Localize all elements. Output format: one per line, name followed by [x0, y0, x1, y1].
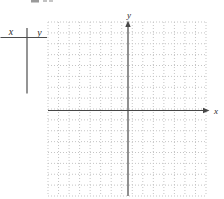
y-axis: y	[125, 10, 131, 196]
graph-figure: x y x y	[0, 0, 224, 199]
table-header-y: y	[36, 27, 42, 38]
xy-value-table: x y	[1, 26, 48, 94]
cropped-text-remnant	[31, 0, 53, 3]
y-axis-arrow	[125, 21, 130, 28]
y-axis-label: y	[126, 10, 131, 20]
table-header-x: x	[8, 26, 14, 37]
x-axis: x	[48, 106, 218, 116]
grid	[48, 22, 206, 196]
x-axis-label: x	[213, 106, 218, 116]
coordinate-plane-svg: x y x y	[0, 0, 224, 199]
